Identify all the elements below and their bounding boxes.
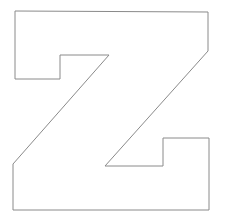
letter-z-icon bbox=[0, 0, 225, 223]
canvas: Z bbox=[0, 0, 225, 223]
letter-z-outline bbox=[13, 11, 209, 210]
